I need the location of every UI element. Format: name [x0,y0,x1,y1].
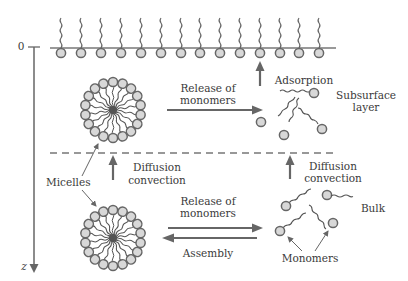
subsurface-monomers [256,88,326,139]
adsorption-micelle-diagram [0,0,408,281]
release-upper-label-2: monomers [168,94,248,107]
upper-micelle [80,77,146,142]
assembly-arrow [162,234,257,243]
diffusion-right-label-2: convection [301,172,365,185]
monomers-label: Monomers [280,252,340,265]
axis-origin-label: 0 [16,40,26,53]
adsorbed-monolayer [56,18,323,58]
depth-axis [28,47,40,273]
bulk-label: Bulk [356,202,390,215]
adsorption-label: Adsorption [274,74,334,87]
subsurface-label-2: layer [336,101,396,114]
assembly-label: Assembly [168,247,248,260]
release-lower-label-2: monomers [168,207,248,220]
lower-micelle [80,205,146,270]
axis-depth-label: z [19,260,29,273]
diffusion-left-label-1: Diffusion [125,161,189,174]
diffusion-left-label-2: convection [125,174,189,187]
diffusion-arrow-right [286,155,295,179]
release-arrow-lower [168,224,263,233]
diffusion-arrow-left [109,155,118,180]
adsorption-arrow [256,61,265,86]
bulk-monomers [275,189,353,251]
micelles-label: Micelles [46,176,90,189]
